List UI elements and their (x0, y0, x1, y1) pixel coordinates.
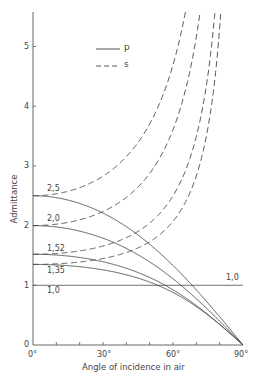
curve-label-1-35: 1,35 (47, 266, 65, 275)
y-tick-2: 2 (24, 221, 29, 230)
legend-p-label: p (124, 42, 130, 52)
x-tick-60: 60° (166, 350, 180, 359)
curve-s-n2 (33, 12, 200, 226)
x-tick-0: 0° (28, 350, 37, 359)
y-tick-3: 3 (24, 161, 29, 170)
x-tick-30: 30° (97, 350, 111, 359)
legend (96, 49, 120, 66)
curve-label-2-5: 2,5 (47, 184, 60, 193)
y-axis-title: Admittance (9, 175, 19, 224)
x-axis-title: Angle of incidence in air (82, 362, 185, 372)
curve-label-1-0: 1,0 (47, 286, 60, 295)
chart-canvas (0, 0, 260, 382)
y-tick-0: 0 (24, 340, 29, 349)
legend-s-label: s (124, 59, 129, 69)
y-tick-4: 4 (24, 102, 29, 111)
curve-p-n1-35 (33, 264, 243, 345)
curves (33, 12, 243, 345)
axes (33, 12, 243, 345)
curve-s-n2-5 (33, 12, 186, 196)
curve-label-1-0-right: 1,0 (226, 273, 239, 282)
y-tick-1: 1 (24, 281, 29, 290)
curve-label-1-52: 1,52 (47, 244, 65, 253)
curve-label-2-0: 2,0 (47, 214, 60, 223)
y-tick-5: 5 (24, 42, 29, 51)
x-tick-90: 90° (234, 350, 248, 359)
